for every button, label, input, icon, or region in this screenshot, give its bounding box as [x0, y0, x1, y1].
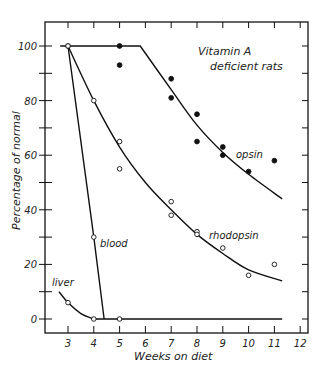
annotation-deficient-rats: deficient rats	[210, 60, 283, 73]
y-axis-label: Percentage of normal	[10, 111, 23, 230]
x-tick-label: 11	[268, 338, 281, 349]
y-tick-label: 80	[24, 96, 37, 107]
point-rhodopsin	[221, 246, 226, 251]
point-opsin	[169, 95, 174, 100]
point-opsin	[195, 112, 200, 117]
x-tick-label: 6	[142, 338, 148, 349]
x-tick-label: 12	[294, 338, 307, 349]
point-blood	[92, 235, 97, 240]
point-rhodopsin	[246, 273, 251, 278]
label-blood: blood	[100, 238, 128, 249]
point-rhodopsin	[169, 199, 174, 204]
point-opsin	[220, 153, 225, 158]
x-tick-label: 8	[194, 338, 200, 349]
y-tick-label: 0	[31, 314, 37, 325]
point-rhodopsin	[117, 167, 122, 172]
point-liver	[117, 317, 122, 322]
x-tick-label: 3	[65, 338, 71, 349]
label-liver: liver	[52, 277, 75, 288]
x-tick-label: 4	[91, 338, 97, 349]
point-rhodopsin	[169, 213, 174, 218]
y-tick-label: 60	[24, 150, 37, 161]
x-axis-label: Weeks on diet	[134, 350, 213, 363]
curve-liver	[59, 292, 282, 319]
x-tick-label: 5	[116, 338, 122, 349]
chart-canvas: 3456789101112020406080100 Vitamin A defi…	[0, 0, 325, 378]
point-opsin	[169, 76, 174, 81]
point-opsin	[117, 63, 122, 68]
point-opsin	[220, 145, 225, 150]
point-liver	[92, 317, 97, 322]
point-liver	[66, 300, 71, 305]
point-opsin	[195, 139, 200, 144]
point-rhodopsin	[195, 232, 200, 237]
x-tick-label: 10	[242, 338, 255, 349]
point-rhodopsin	[92, 98, 97, 103]
y-tick-label: 100	[18, 41, 37, 52]
x-tick-label: 9	[220, 338, 226, 349]
point-rhodopsin	[272, 262, 277, 267]
point-rhodopsin	[117, 139, 122, 144]
point-opsin	[246, 169, 251, 174]
label-opsin: opsin	[236, 149, 263, 160]
point-opsin	[117, 44, 122, 49]
x-tick-label: 7	[168, 338, 175, 349]
y-tick-label: 20	[24, 259, 37, 270]
point-opsin	[272, 158, 277, 163]
y-tick-label: 40	[24, 205, 37, 216]
point-blood	[66, 44, 71, 49]
data-points	[66, 44, 277, 322]
annotation-vitamin-a: Vitamin A	[198, 45, 251, 58]
label-rhodopsin: rhodopsin	[209, 230, 259, 241]
